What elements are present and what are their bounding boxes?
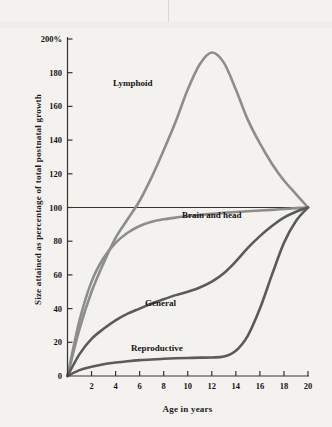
x-tick-label: 2	[80, 381, 104, 391]
curve-general	[68, 208, 309, 377]
y-tick-label: 100	[20, 203, 62, 213]
y-tick-label: 80	[20, 236, 62, 246]
y-tick-label: 180	[20, 68, 62, 78]
y-tick-label: 60	[20, 270, 62, 280]
y-tick-label: 120	[20, 169, 62, 179]
curve-label-reproductive: Reproductive	[131, 343, 183, 353]
y-tick-label: 0	[20, 371, 62, 381]
x-tick-label: 16	[248, 381, 272, 391]
y-tick-label: 200%	[20, 34, 62, 44]
x-tick-label: 20	[296, 381, 320, 391]
y-tick-label: 140	[20, 135, 62, 145]
growth-curves-chart	[0, 0, 332, 427]
x-tick-label: 18	[272, 381, 296, 391]
y-tick-label: 160	[20, 101, 62, 111]
curve-label-general: General	[145, 298, 176, 308]
x-tick-label: 8	[152, 381, 176, 391]
x-tick-label: 10	[176, 381, 200, 391]
figure-container: Size attained as percentage of total pos…	[0, 0, 332, 427]
y-tick-label: 20	[20, 337, 62, 347]
x-tick-label: 4	[104, 381, 128, 391]
curve-label-brain-and-head: Brain and head	[182, 210, 242, 220]
x-tick-label: 14	[224, 381, 248, 391]
x-tick-label: 6	[128, 381, 152, 391]
x-tick-label: 12	[200, 381, 224, 391]
y-tick-label: 40	[20, 304, 62, 314]
x-axis-title: Age in years	[67, 404, 308, 414]
curve-label-lymphoid: Lymphoid	[113, 78, 153, 88]
